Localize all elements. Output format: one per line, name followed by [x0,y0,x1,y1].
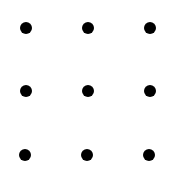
dot-r2-c3 [144,85,156,97]
dot-r2-c2 [82,85,94,97]
dot-r3-c3 [143,149,155,161]
dot-r1-c2 [82,22,94,34]
dot-r3-c1 [19,149,31,161]
dot-r3-c2 [81,149,93,161]
dot-grid [0,0,172,170]
dot-r1-c1 [20,22,32,34]
dot-r1-c3 [144,22,156,34]
dot-r2-c1 [20,85,32,97]
